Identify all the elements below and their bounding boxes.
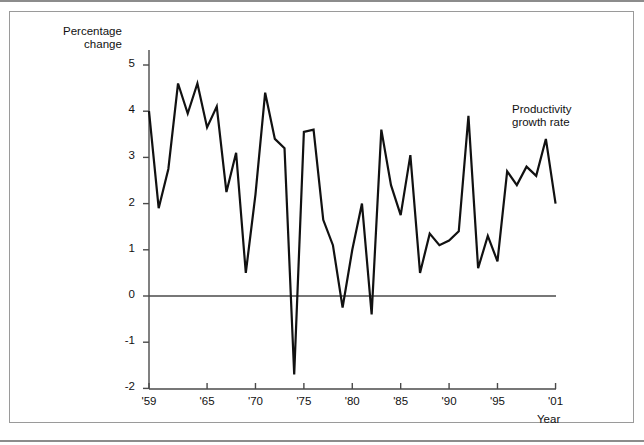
y-axis-ticks (143, 65, 149, 388)
chart-page: Percentagechange Year Productivitygrowth… (0, 0, 644, 445)
x-axis-ticks (149, 383, 556, 389)
axis-lines (149, 50, 556, 389)
productivity-growth-line (149, 83, 556, 374)
chart-plot-area (0, 0, 644, 445)
